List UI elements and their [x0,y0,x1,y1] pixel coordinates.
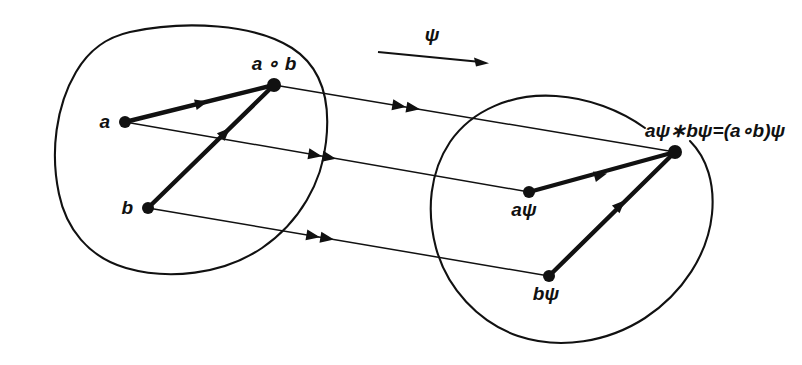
label-product: aψ∗bψ=(a∘b)ψ [645,120,785,141]
node-b-psi [543,270,555,282]
node-product [668,145,682,159]
node-b [142,202,154,214]
node-a-op-b [267,78,281,92]
label-b: b [121,197,133,218]
edge-b-to-a-op-b [148,85,274,208]
node-a [119,116,131,128]
label-a-psi: aψ [511,199,537,220]
label-psi: ψ [425,24,440,45]
figure-canvas: a b a ∘ b aψ bψ aψ∗bψ=(a∘b)ψ ψ [0,0,802,365]
homomorphism-diagram: a b a ∘ b aψ bψ aψ∗bψ=(a∘b)ψ ψ [0,0,802,365]
label-b-psi: bψ [533,283,560,304]
node-a-psi [523,186,535,198]
edge-a-to-a-op-b [125,85,274,122]
label-a: a [99,111,110,132]
mapping-line-b [148,208,549,276]
label-a-op-b: a ∘ b [252,53,297,74]
mapping-line-a-op-b [274,85,675,152]
psi-map-arrow [378,52,489,67]
